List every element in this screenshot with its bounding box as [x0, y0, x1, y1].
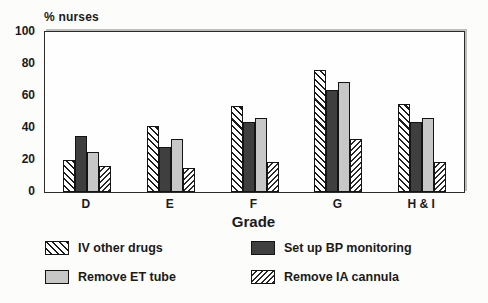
y-tick-label: 20 [1, 152, 35, 166]
bar-remove-et-tube-d [87, 152, 99, 192]
bar-set-up-bp-monitoring-g [326, 90, 338, 192]
x-tick-label-d: D [82, 197, 91, 211]
x-axis-labels: DEFGH & I [44, 197, 463, 212]
legend-label-remove-et-tube: Remove ET tube [78, 270, 176, 284]
legend-swatch-remove-ia-cannula [251, 270, 275, 284]
bar-chart-figure: % nurses 020406080100 DEFGH & I Grade IV… [0, 0, 488, 303]
bar-iv-other-drugs-d [63, 160, 75, 192]
bar-iv-other-drugs-g [314, 70, 326, 192]
bar-remove-ia-cannula-g [350, 139, 362, 192]
bar-set-up-bp-monitoring-f [243, 122, 255, 192]
plot-area [44, 31, 465, 193]
legend: IV other drugsSet up BP monitoringRemove… [45, 241, 412, 284]
y-tick-label: 80 [1, 56, 35, 70]
legend-item-remove-ia-cannula: Remove IA cannula [251, 270, 412, 284]
y-tick-label: 100 [1, 24, 35, 38]
legend-item-set-up-bp-monitoring: Set up BP monitoring [251, 241, 412, 255]
bar-iv-other-drugs-e [147, 126, 159, 192]
bar-remove-et-tube-h-i [422, 118, 434, 192]
y-tick-label: 40 [1, 120, 35, 134]
y-axis-title: % nurses [44, 10, 99, 24]
bar-iv-other-drugs-h-i [398, 104, 410, 192]
legend-item-remove-et-tube: Remove ET tube [45, 270, 251, 284]
legend-swatch-remove-et-tube [45, 270, 69, 284]
x-tick-label-h-i: H & I [407, 197, 434, 211]
x-tick-label-f: F [250, 197, 257, 211]
legend-label-set-up-bp-monitoring: Set up BP monitoring [284, 241, 412, 255]
bar-remove-et-tube-g [338, 82, 350, 192]
legend-label-remove-ia-cannula: Remove IA cannula [284, 270, 399, 284]
bar-remove-ia-cannula-h-i [434, 162, 446, 192]
legend-item-iv-other-drugs: IV other drugs [45, 241, 251, 255]
bar-remove-et-tube-e [171, 139, 183, 192]
legend-swatch-set-up-bp-monitoring [251, 241, 275, 255]
bar-group-d [63, 32, 111, 192]
bar-group-g [314, 32, 362, 192]
bar-remove-ia-cannula-f [267, 162, 279, 192]
bar-remove-et-tube-f [255, 118, 267, 192]
bar-set-up-bp-monitoring-d [75, 136, 87, 192]
x-axis-title: Grade [44, 213, 463, 230]
bar-remove-ia-cannula-e [183, 168, 195, 192]
legend-swatch-iv-other-drugs [45, 241, 69, 255]
bar-group-f [231, 32, 279, 192]
bar-group-e [147, 32, 195, 192]
y-axis: 020406080100 [0, 31, 40, 191]
bar-set-up-bp-monitoring-e [159, 147, 171, 192]
x-tick-label-g: G [333, 197, 342, 211]
bar-group-h-i [398, 32, 446, 192]
legend-label-iv-other-drugs: IV other drugs [78, 241, 163, 255]
bar-set-up-bp-monitoring-h-i [410, 122, 422, 192]
bar-remove-ia-cannula-d [99, 166, 111, 192]
x-tick-label-e: E [166, 197, 174, 211]
bar-iv-other-drugs-f [231, 106, 243, 192]
y-tick-label: 60 [1, 88, 35, 102]
y-tick-label: 0 [1, 184, 35, 198]
